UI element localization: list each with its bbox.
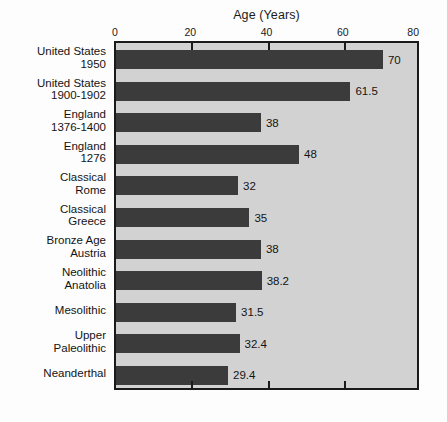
x-tick-label: 80: [407, 26, 419, 38]
category-label: England 1376-1400: [0, 108, 106, 133]
category-label: United States 1900-1902: [0, 77, 106, 102]
bar: [116, 176, 238, 195]
x-tick-label: 40: [261, 26, 273, 38]
bar-value-label: 38.2: [267, 275, 289, 287]
bar-value-label: 38: [266, 243, 279, 255]
axis-tick-mark: [268, 381, 270, 388]
bar-chart-figure: Age (Years) 020406080 7061.5384832353838…: [0, 0, 447, 422]
bar-value-label: 38: [266, 117, 279, 129]
bar-row: 31.5: [116, 303, 421, 322]
bar-row: 35: [116, 208, 421, 227]
category-label: Classical Greece: [0, 203, 106, 228]
bar-value-label: 61.5: [355, 85, 377, 97]
bar-value-label: 35: [254, 212, 267, 224]
category-label: Neolithic Anatolia: [0, 266, 106, 291]
x-tick-label: 0: [112, 26, 118, 38]
bar-row: 38.2: [116, 271, 421, 290]
bar: [116, 145, 299, 164]
bar: [116, 334, 240, 353]
category-label: Neanderthal: [0, 367, 106, 380]
x-axis-top: 020406080: [114, 26, 419, 40]
bar-row: 48: [116, 145, 421, 164]
bar-value-label: 70: [388, 54, 401, 66]
bar: [116, 208, 249, 227]
axis-tick-mark: [268, 43, 270, 50]
bar: [116, 50, 383, 69]
x-tick-label: 20: [184, 26, 196, 38]
bar-row: 61.5: [116, 82, 421, 101]
category-label: Mesolithic: [0, 304, 106, 317]
bar: [116, 240, 261, 259]
chart-title: Age (Years): [114, 8, 419, 22]
bar-row: 32.4: [116, 334, 421, 353]
axis-tick-mark: [344, 381, 346, 388]
axis-tick-mark: [344, 43, 346, 50]
bar: [116, 271, 262, 290]
category-label: United States 1950: [0, 45, 106, 70]
bar-row: 38: [116, 240, 421, 259]
category-labels: United States 1950United States 1900-190…: [0, 41, 106, 390]
category-label: England 1276: [0, 140, 106, 165]
axis-tick-mark: [191, 381, 193, 388]
category-label: Classical Rome: [0, 171, 106, 196]
bar-value-label: 32.4: [245, 338, 267, 350]
category-label: Bronze Age Austria: [0, 234, 106, 259]
bar: [116, 82, 350, 101]
bars-layer: 7061.5384832353838.231.532.429.4: [116, 43, 417, 388]
axis-tick-mark: [191, 43, 193, 50]
bar: [116, 366, 228, 385]
bar: [116, 303, 236, 322]
bar-row: 32: [116, 176, 421, 195]
bar: [116, 113, 261, 132]
plot-area: 7061.5384832353838.231.532.429.4: [114, 41, 419, 390]
x-tick-label: 60: [337, 26, 349, 38]
bar-row: 38: [116, 113, 421, 132]
bar-value-label: 29.4: [233, 369, 255, 381]
bar-row: 70: [116, 50, 421, 69]
category-label: Upper Paleolithic: [0, 329, 106, 354]
bar-value-label: 32: [243, 180, 256, 192]
bar-value-label: 31.5: [241, 306, 263, 318]
bar-value-label: 48: [304, 148, 317, 160]
